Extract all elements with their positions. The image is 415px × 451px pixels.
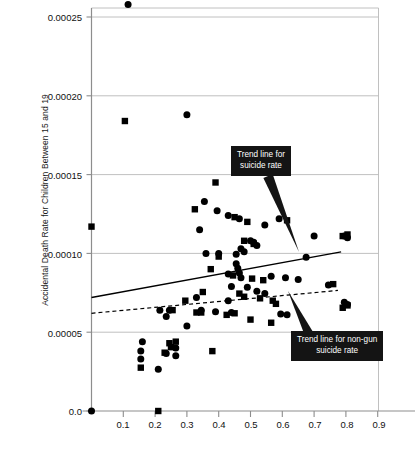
data-point-circle-39 xyxy=(156,307,163,314)
data-point-circle-31 xyxy=(228,283,235,290)
data-point-circle-46 xyxy=(183,322,190,329)
data-point-circle-33 xyxy=(253,288,260,295)
annotation-nongun-trend: Trend line for non-gun suicide rate xyxy=(291,331,383,361)
annotation-nongun-line-1: Trend line for non-gun xyxy=(297,335,377,346)
data-point-circle-7 xyxy=(276,215,283,222)
data-point-square-13 xyxy=(230,272,236,278)
annotation-nongun-line-2: suicide rate xyxy=(297,346,377,357)
data-point-square-3 xyxy=(192,206,198,212)
data-point-square-32 xyxy=(168,344,174,350)
data-point-circle-27 xyxy=(268,273,275,280)
trend-lines xyxy=(92,252,342,313)
data-point-square-16 xyxy=(330,281,336,287)
data-point-circle-36 xyxy=(225,297,232,304)
data-point-circle-25 xyxy=(237,274,244,281)
data-point-square-29 xyxy=(247,316,253,322)
data-point-circle-18 xyxy=(233,251,240,258)
data-point-circle-43 xyxy=(277,311,284,318)
data-point-square-0 xyxy=(88,223,94,229)
data-point-square-34 xyxy=(173,338,179,344)
data-point-circle-21 xyxy=(303,254,310,261)
data-point-square-4 xyxy=(231,214,237,220)
data-point-square-15 xyxy=(260,277,266,283)
data-point-circle-44 xyxy=(284,311,291,318)
data-point-square-17 xyxy=(200,289,206,295)
data-point-circle-8 xyxy=(196,226,203,233)
data-point-square-14 xyxy=(249,275,255,281)
data-point-circle-45 xyxy=(163,313,170,320)
data-point-circle-29 xyxy=(295,276,302,283)
plot-area xyxy=(0,0,415,451)
data-point-circle-32 xyxy=(244,284,251,291)
data-point-square-2 xyxy=(212,179,218,185)
data-point-square-33 xyxy=(161,349,167,355)
data-point-square-22 xyxy=(273,301,279,307)
data-point-square-26 xyxy=(169,307,175,313)
data-point-circle-5 xyxy=(225,212,232,219)
data-point-circle-41 xyxy=(212,308,219,315)
data-point-circle-16 xyxy=(202,250,209,257)
data-point-circle-3 xyxy=(201,198,208,205)
data-point-square-1 xyxy=(122,118,128,124)
data-point-square-10 xyxy=(344,231,350,237)
data-point-circle-35 xyxy=(193,294,200,301)
data-point-square-8 xyxy=(250,241,256,247)
data-point-circle-28 xyxy=(282,274,289,281)
annotation-suicide-trend: Trend line for suicide rate xyxy=(231,146,291,176)
data-point-circle-10 xyxy=(311,233,318,240)
annotation-suicide-line-2: suicide rate xyxy=(237,161,285,172)
data-point-square-23 xyxy=(182,297,188,303)
data-point-circle-53 xyxy=(155,366,162,373)
data-point-circle-48 xyxy=(137,348,144,355)
data-point-circle-9 xyxy=(261,222,268,229)
leader-nongun-trend xyxy=(288,291,313,336)
data-point-square-12 xyxy=(208,266,214,272)
data-point-circle-51 xyxy=(172,352,179,359)
data-point-square-39 xyxy=(223,312,229,318)
data-point-square-35 xyxy=(209,348,215,354)
data-point-square-28 xyxy=(231,310,237,316)
scatter-chart-figure: Accidental Death Rate for Children Betwe… xyxy=(0,0,415,451)
data-point-circle-1 xyxy=(183,111,190,118)
annotation-suicide-line-1: Trend line for xyxy=(237,150,285,161)
leader-suicide-trend xyxy=(263,174,299,252)
data-point-circle-4 xyxy=(214,207,221,214)
data-point-square-11 xyxy=(216,253,222,259)
data-point-square-25 xyxy=(340,305,346,311)
data-point-circle-2 xyxy=(88,408,95,415)
data-point-square-36 xyxy=(138,364,144,370)
data-point-square-37 xyxy=(155,408,161,414)
data-point-square-20 xyxy=(257,295,263,301)
data-point-circle-20 xyxy=(241,248,248,255)
data-point-square-30 xyxy=(268,320,274,326)
data-point-square-19 xyxy=(241,294,247,300)
data-point-circle-47 xyxy=(139,338,146,345)
data-point-square-5 xyxy=(244,219,250,225)
data-point-square-7 xyxy=(241,238,247,244)
data-point-circle-0 xyxy=(125,1,132,8)
data-point-circle-49 xyxy=(137,355,144,362)
data-point-square-38 xyxy=(198,309,204,315)
